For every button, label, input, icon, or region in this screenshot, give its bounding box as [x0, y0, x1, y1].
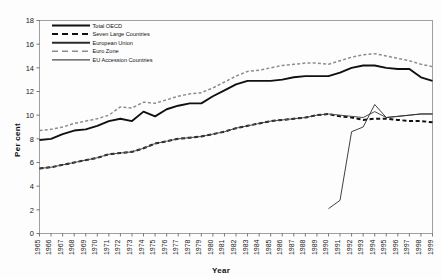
svg-text:1991: 1991 — [334, 239, 341, 255]
svg-text:1996: 1996 — [392, 239, 399, 255]
svg-text:1990: 1990 — [322, 239, 329, 255]
svg-text:1978: 1978 — [184, 239, 191, 255]
svg-text:6: 6 — [30, 158, 34, 167]
legend-label: EU Accession Countries — [93, 57, 153, 63]
svg-text:1983: 1983 — [242, 239, 249, 255]
svg-text:2: 2 — [30, 206, 34, 215]
svg-text:8: 8 — [30, 135, 34, 144]
svg-text:1971: 1971 — [103, 239, 110, 255]
svg-text:10: 10 — [26, 111, 34, 120]
svg-text:1966: 1966 — [45, 239, 52, 255]
svg-text:1992: 1992 — [346, 239, 353, 255]
svg-text:1986: 1986 — [276, 239, 283, 255]
svg-text:1980: 1980 — [207, 239, 214, 255]
legend-label: European Union — [93, 40, 133, 46]
legend-label: Seven Large Countries — [93, 31, 150, 37]
svg-text:1977: 1977 — [172, 239, 179, 255]
svg-text:1981: 1981 — [218, 239, 225, 255]
svg-text:1969: 1969 — [80, 239, 87, 255]
svg-text:1995: 1995 — [380, 239, 387, 255]
svg-text:14: 14 — [26, 64, 34, 73]
svg-text:1993: 1993 — [357, 239, 364, 255]
svg-text:12: 12 — [26, 87, 34, 96]
svg-text:1985: 1985 — [265, 239, 272, 255]
svg-text:4: 4 — [30, 182, 34, 191]
svg-text:1976: 1976 — [161, 239, 168, 255]
x-axis-label: Year — [0, 266, 442, 275]
svg-text:1984: 1984 — [253, 239, 260, 255]
legend-label: Euro Zone — [93, 48, 119, 54]
svg-text:1972: 1972 — [114, 239, 121, 255]
svg-text:1974: 1974 — [138, 239, 145, 255]
svg-text:1997: 1997 — [403, 239, 410, 255]
svg-text:1973: 1973 — [126, 239, 133, 255]
svg-text:1967: 1967 — [57, 239, 64, 255]
svg-text:1989: 1989 — [311, 239, 318, 255]
svg-text:1987: 1987 — [288, 239, 295, 255]
svg-text:1988: 1988 — [299, 239, 306, 255]
svg-text:1968: 1968 — [68, 239, 75, 255]
y-axis-label: Per cent — [13, 123, 22, 157]
svg-text:16: 16 — [26, 40, 34, 49]
legend-label: Total OECD — [93, 23, 123, 29]
svg-text:1994: 1994 — [369, 239, 376, 255]
svg-text:1999: 1999 — [427, 239, 434, 255]
svg-text:18: 18 — [26, 16, 34, 25]
svg-text:1965: 1965 — [34, 239, 41, 255]
chart-container: 0246810121416181965196619671968196919701… — [0, 0, 442, 279]
svg-text:1970: 1970 — [91, 239, 98, 255]
line-chart-plot: 0246810121416181965196619671968196919701… — [0, 0, 442, 279]
svg-text:1982: 1982 — [230, 239, 237, 255]
svg-text:1975: 1975 — [149, 239, 156, 255]
svg-text:1998: 1998 — [415, 239, 422, 255]
svg-text:1979: 1979 — [195, 239, 202, 255]
svg-text:0: 0 — [30, 229, 34, 238]
series-line — [40, 112, 433, 169]
series-line — [40, 114, 433, 168]
